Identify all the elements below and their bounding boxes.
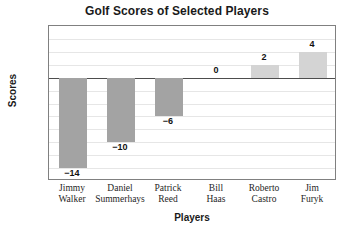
y-axis-title: Scores [7, 61, 18, 121]
x-tick-label-line: Jim [282, 183, 342, 194]
bar-value-label: 0 [186, 65, 246, 75]
chart-figure: Golf Scores of Selected Players Scores 8… [0, 0, 354, 234]
bar [251, 65, 279, 78]
bar-value-label: −10 [90, 142, 150, 152]
x-tick-label-line: Furyk [282, 194, 342, 205]
bar-value-label: 2 [234, 52, 294, 62]
bar [299, 52, 327, 78]
bar [107, 78, 135, 143]
x-axis-title: Players [48, 212, 336, 223]
page-title: Golf Scores of Selected Players [0, 4, 354, 18]
bar-value-label: −14 [42, 168, 102, 178]
bar-value-label: −6 [138, 116, 198, 126]
gridline [49, 104, 335, 105]
gridline [49, 129, 335, 130]
x-tick-label: JimFuryk [282, 183, 342, 205]
gridline [49, 155, 335, 156]
bar [59, 78, 87, 168]
bar-value-label: 4 [282, 39, 342, 49]
gridline [49, 91, 335, 92]
zero-line [49, 78, 335, 79]
bar [155, 78, 183, 117]
